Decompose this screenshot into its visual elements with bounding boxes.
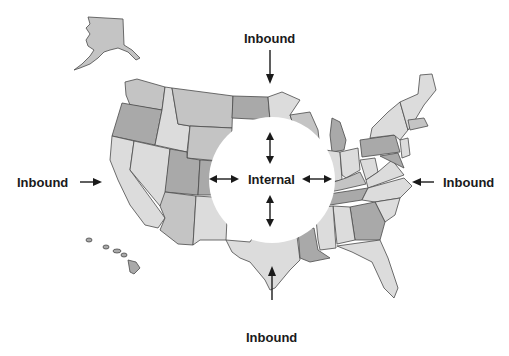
massachusetts [408,118,428,130]
arrow-down-icon [266,50,274,84]
arrow-left-icon [412,178,434,186]
label-inbound-top: Inbound [244,31,295,46]
montana [172,88,233,128]
label-inbound-right: Inbound [443,175,494,190]
label-inbound-bottom: Inbound [246,330,297,345]
label-inbound-left: Inbound [17,175,68,190]
north-dakota [232,96,270,120]
michigan [330,118,346,152]
label-internal: Internal [248,172,295,187]
arrow-right-icon [80,178,102,186]
hawaii [86,238,140,274]
alaska [74,17,140,70]
florida [337,240,398,298]
new-jersey [400,138,410,158]
arizona [160,192,196,245]
